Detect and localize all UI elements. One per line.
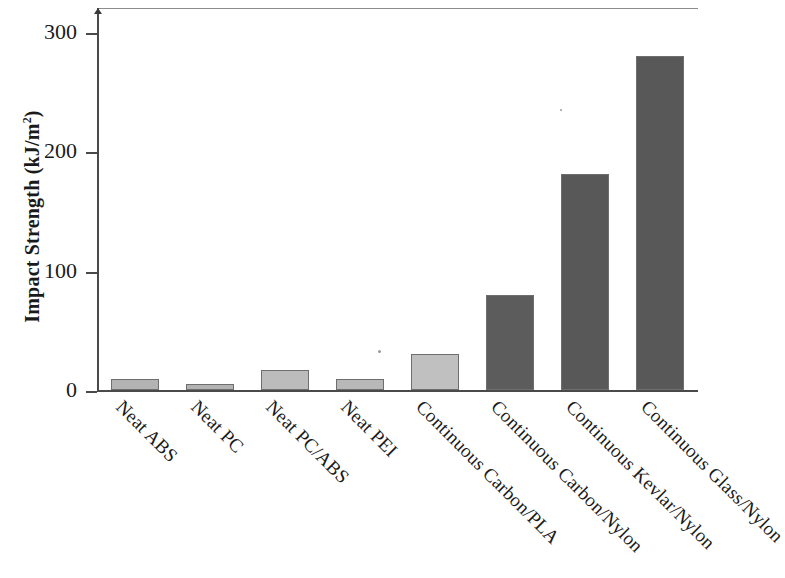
x-axis-label: Continuous Carbon/Nylon bbox=[487, 396, 648, 557]
bar bbox=[336, 379, 384, 390]
x-axis-line bbox=[97, 390, 698, 392]
y-axis-tick-label: 0 bbox=[7, 377, 77, 403]
y-axis-tick: 300 bbox=[86, 33, 97, 35]
x-axis-label: Continuous Carbon/PLA bbox=[412, 396, 565, 549]
bars-group bbox=[97, 8, 698, 390]
x-axis-label: Neat ABS bbox=[111, 396, 182, 467]
y-axis-title-tail: ) bbox=[21, 110, 43, 117]
y-axis-tick: 100 bbox=[86, 272, 97, 274]
y-axis-title-exponent: 2 bbox=[20, 117, 34, 123]
y-axis-tick-label: 200 bbox=[7, 138, 77, 164]
x-axis-label-text: Neat PC bbox=[186, 396, 248, 458]
y-axis-tick: 200 bbox=[86, 152, 97, 154]
x-axis-label-text: Neat ABS bbox=[111, 396, 182, 467]
bar bbox=[111, 379, 159, 390]
x-axis-label-text: Continuous Carbon/Nylon bbox=[487, 396, 648, 557]
x-axis-label-text: Neat PEI bbox=[336, 396, 402, 462]
bar bbox=[411, 354, 459, 390]
y-axis-tick-label: 100 bbox=[7, 258, 77, 284]
scan-speck bbox=[378, 350, 381, 353]
x-axis-label: Continuous Kevlar/Nylon bbox=[562, 396, 720, 554]
bar bbox=[261, 370, 309, 390]
y-axis-tick: 0 bbox=[86, 391, 97, 393]
x-axis-label: Continuous Glass/Nylon bbox=[637, 396, 785, 547]
bar bbox=[561, 174, 609, 390]
x-axis-label-text: Continuous Kevlar/Nylon bbox=[562, 396, 720, 554]
bar bbox=[486, 295, 534, 391]
plot-area: 0100200300 bbox=[97, 8, 698, 392]
bar bbox=[186, 384, 234, 390]
scan-speck bbox=[560, 109, 562, 111]
x-axis-label-text: Continuous Glass/Nylon bbox=[637, 396, 785, 547]
y-axis-tick-label: 300 bbox=[7, 19, 77, 45]
x-axis-label-text: Continuous Carbon/PLA bbox=[412, 396, 565, 549]
x-axis-labels: Neat ABSNeat PCNeat PC/ABSNeat PEIContin… bbox=[97, 396, 698, 578]
bar bbox=[636, 56, 684, 390]
x-axis-label: Neat PC bbox=[186, 396, 248, 458]
x-axis-label: Neat PEI bbox=[336, 396, 402, 462]
y-axis-title: Impact Strength (kJ/m2) bbox=[21, 67, 44, 367]
